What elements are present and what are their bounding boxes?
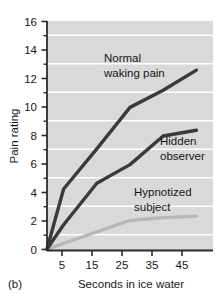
y-tick-label: 6	[31, 158, 37, 170]
x-tick-label: 35	[146, 259, 159, 271]
x-tick-label: 15	[86, 259, 99, 271]
y-tick-label: 2	[31, 215, 37, 227]
y-tick-label: 0	[31, 244, 37, 256]
y-tick-label: 10	[24, 101, 37, 113]
x-axis-tick-labels: 5 15 25 35 45	[59, 259, 189, 271]
x-tick-label: 5	[59, 259, 65, 271]
series-label-line1: Normal	[104, 52, 141, 64]
y-tick-label: 4	[31, 187, 38, 199]
y-tick-label: 8	[31, 130, 37, 142]
y-axis-title: Pain rating	[8, 109, 20, 164]
y-tick-label: 16	[24, 16, 37, 28]
series-label-line1: Hypnotized	[134, 186, 192, 198]
series-label-line2: observer	[160, 150, 205, 162]
y-axis-tick-labels: 16 14 12 10 8 6 4 2 0	[24, 16, 37, 256]
series-label-line2: subject	[134, 201, 171, 213]
y-tick-label: 12	[24, 73, 37, 85]
x-axis-title: Seconds in ice water	[78, 278, 184, 290]
figure-panel-b: 16 14 12 10 8 6 4 2 0 5 15 25 35 45 Pain…	[0, 0, 224, 299]
series-label-line2: waking pain	[103, 67, 165, 79]
panel-label: (b)	[8, 278, 22, 290]
x-tick-label: 25	[116, 259, 129, 271]
pain-rating-line-chart: 16 14 12 10 8 6 4 2 0 5 15 25 35 45 Pain…	[0, 0, 224, 299]
y-tick-label: 14	[24, 44, 37, 56]
x-tick-label: 45	[176, 259, 189, 271]
series-label-line1: Hidden	[160, 135, 196, 147]
